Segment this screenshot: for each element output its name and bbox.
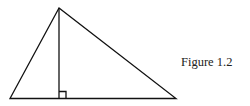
triangle — [10, 8, 176, 99]
figure-caption: Figure 1.2 — [181, 55, 232, 70]
triangle-diagram — [0, 0, 250, 106]
right-angle-marker — [59, 92, 66, 99]
